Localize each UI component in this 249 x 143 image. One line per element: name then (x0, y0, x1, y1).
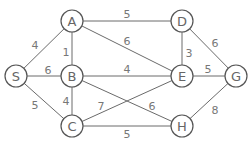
node-b: B (61, 65, 83, 87)
node-a: A (61, 10, 83, 32)
edge-weight-a-e: 6 (124, 35, 131, 48)
edge-weight-c-e: 7 (98, 100, 105, 113)
node-label: A (68, 14, 77, 29)
node-label: C (67, 119, 76, 134)
node-label: H (177, 119, 187, 134)
edge-weight-b-h: 6 (149, 100, 156, 113)
edge-weight-h-g: 8 (212, 104, 219, 117)
edge-weight-d-e: 3 (186, 47, 193, 60)
edge-weight-c-h: 5 (124, 128, 131, 141)
node-h: H (171, 115, 193, 137)
node-e: E (171, 65, 193, 87)
node-s: S (5, 65, 27, 87)
node-c: C (61, 115, 83, 137)
node-g: G (225, 65, 247, 87)
edge-weight-d-g: 6 (212, 37, 219, 50)
edge-weight-s-c: 5 (32, 99, 39, 112)
node-label: B (68, 69, 77, 84)
edge-weight-a-b: 1 (63, 46, 70, 59)
node-label: D (177, 14, 187, 29)
edge-weight-b-c: 4 (63, 95, 70, 108)
node-d: D (171, 10, 193, 32)
node-label: S (12, 69, 20, 84)
node-label: E (178, 69, 186, 84)
weighted-graph: 564165464753658 ADSBEGCH (0, 0, 249, 143)
edge-weight-s-b: 6 (45, 64, 52, 77)
edge-weight-b-e: 4 (124, 63, 131, 76)
edge-weight-a-d: 5 (124, 8, 131, 21)
edge-weight-e-g: 5 (205, 63, 212, 76)
node-label: G (231, 69, 241, 84)
edge-weight-s-a: 4 (32, 39, 39, 52)
